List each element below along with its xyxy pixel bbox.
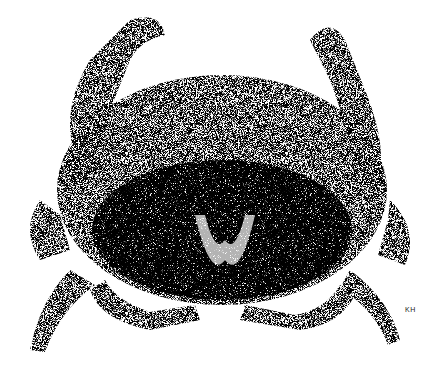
artist-signature: KH <box>405 306 416 313</box>
crab-illustration: KH <box>0 0 444 380</box>
carapace <box>57 75 387 305</box>
crab-drawing <box>0 0 444 380</box>
